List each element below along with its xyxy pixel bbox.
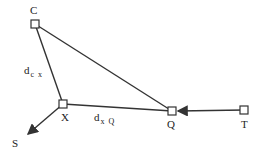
edge-x-q bbox=[63, 104, 172, 111]
edge-label-dxq: dx Q bbox=[94, 112, 115, 124]
edge-label-dcx-sub: c x bbox=[31, 70, 44, 79]
edge-c-q bbox=[35, 24, 172, 111]
node-x-box bbox=[59, 100, 67, 108]
node-x-label: X bbox=[61, 112, 69, 123]
edge-label-dxq-main: d bbox=[94, 111, 100, 123]
endpoint-s-label: S bbox=[12, 138, 18, 149]
node-q-label: Q bbox=[167, 119, 175, 130]
edge-label-dcx-main: d bbox=[24, 64, 30, 76]
node-t-label: T bbox=[241, 119, 248, 130]
node-q-box bbox=[168, 107, 176, 115]
edge-label-dxq-sub: x Q bbox=[101, 117, 116, 126]
node-c-label: C bbox=[30, 5, 37, 16]
node-c-box bbox=[31, 20, 39, 28]
edge-label-dcx: dc x bbox=[24, 65, 43, 77]
node-t-box bbox=[240, 106, 248, 114]
edge-c-x bbox=[35, 24, 63, 104]
edge-x-s-arrow bbox=[28, 104, 63, 134]
edge-t-q-arrow bbox=[178, 110, 244, 111]
